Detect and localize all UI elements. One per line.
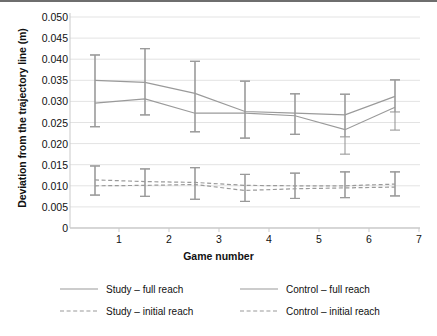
legend-item: Control – full reach <box>240 284 420 295</box>
chart-legend: Study – full reachControl – full reachSt… <box>60 278 420 322</box>
x-tick-label: 4 <box>254 233 284 245</box>
legend-row: Study – initial reachControl – initial r… <box>60 300 420 322</box>
line-chart: Deviation from the trajectory line (m) 0… <box>0 0 437 336</box>
legend-label: Study – initial reach <box>106 306 193 317</box>
x-tick-label: 1 <box>104 233 134 245</box>
error-bars-3 <box>90 166 400 201</box>
legend-item: Control – initial reach <box>240 306 420 317</box>
legend-item: Study – full reach <box>60 284 240 295</box>
legend-label: Control – initial reach <box>286 306 380 317</box>
x-tick-label: 3 <box>204 233 234 245</box>
legend-line-swatch-icon <box>60 306 98 316</box>
legend-line-swatch-icon <box>60 284 98 294</box>
legend-label: Control – full reach <box>286 284 370 295</box>
x-tick-label: 2 <box>154 233 184 245</box>
x-tick-label: 7 <box>404 233 434 245</box>
x-tick-label: 6 <box>354 233 384 245</box>
legend-line-swatch-icon <box>240 306 278 316</box>
legend-line-swatch-icon <box>240 284 278 294</box>
legend-label: Study – full reach <box>106 284 183 295</box>
x-axis-title: Game number <box>0 250 437 262</box>
x-tick-label: 5 <box>304 233 334 245</box>
legend-row: Study – full reachControl – full reach <box>60 278 420 300</box>
legend-item: Study – initial reach <box>60 306 240 317</box>
